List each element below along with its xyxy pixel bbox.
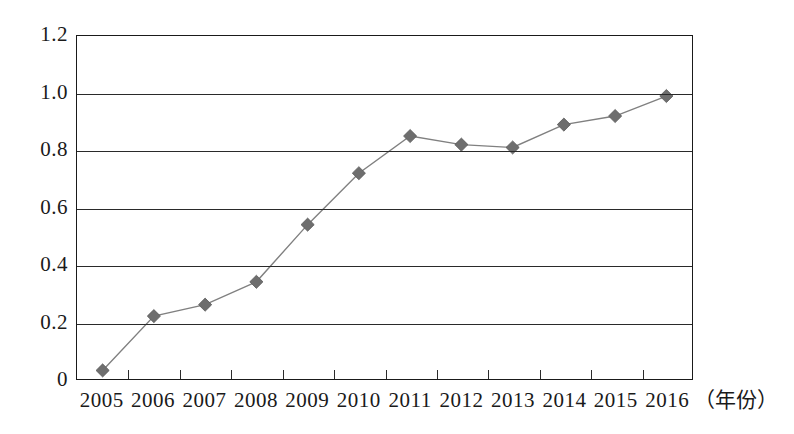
data-point-marker [609, 109, 622, 122]
y-axis-tick-label: 0.2 [8, 312, 68, 333]
x-axis-title: （年份） [694, 388, 778, 412]
x-axis-tick-label: 2013 [487, 388, 538, 412]
data-point-marker [455, 138, 468, 151]
x-axis-tick [643, 370, 644, 379]
data-point-marker [199, 298, 212, 311]
x-axis-tick [231, 370, 232, 379]
x-axis-tick [283, 370, 284, 379]
x-axis-tick-label: 2016 [642, 388, 693, 412]
data-point-marker [404, 129, 417, 142]
y-axis-tick-label: 1.0 [8, 82, 68, 103]
x-axis-tick-label: 2011 [385, 388, 436, 412]
x-axis-tick [334, 370, 335, 379]
x-axis-labels: 2005200620072008200920102011201220132014… [76, 388, 693, 422]
y-axis-tick-label: 0 [8, 369, 68, 390]
x-axis-tick-label: 2005 [76, 388, 127, 412]
x-axis-tick-label: 2014 [539, 388, 590, 412]
x-axis-tick-label: 2012 [436, 388, 487, 412]
x-axis-tick [128, 370, 129, 379]
series-line-and-markers [77, 36, 692, 379]
y-axis-tick-label: 0.6 [8, 197, 68, 218]
series-line [103, 96, 667, 370]
data-point-marker [557, 118, 570, 131]
gridline [77, 94, 692, 95]
x-axis-tick-label: 2010 [333, 388, 384, 412]
gridline [77, 324, 692, 325]
x-axis-tick [437, 370, 438, 379]
x-axis-tick-label: 2006 [127, 388, 178, 412]
x-axis-tick [180, 370, 181, 379]
y-axis-tick-label: 1.2 [8, 24, 68, 45]
y-axis-tick-label: 0.4 [8, 254, 68, 275]
x-axis-tick [591, 370, 592, 379]
gridline [77, 151, 692, 152]
x-axis-tick-label: 2009 [282, 388, 333, 412]
y-axis-labels: 1.21.00.80.60.40.20 [8, 0, 68, 434]
data-point-marker [506, 141, 519, 154]
x-axis-tick [488, 370, 489, 379]
gridline [77, 266, 692, 267]
x-axis-tick-label: 2007 [179, 388, 230, 412]
gridline [77, 209, 692, 210]
plot-area [76, 35, 693, 380]
data-point-marker [660, 89, 673, 102]
x-axis-tick-label: 2008 [230, 388, 281, 412]
x-axis-tick [540, 370, 541, 379]
line-chart: 1.21.00.80.60.40.20 20052006200720082009… [0, 0, 794, 434]
y-axis-tick-label: 0.8 [8, 139, 68, 160]
x-axis-tick [386, 370, 387, 379]
x-axis-tick-label: 2015 [590, 388, 641, 412]
